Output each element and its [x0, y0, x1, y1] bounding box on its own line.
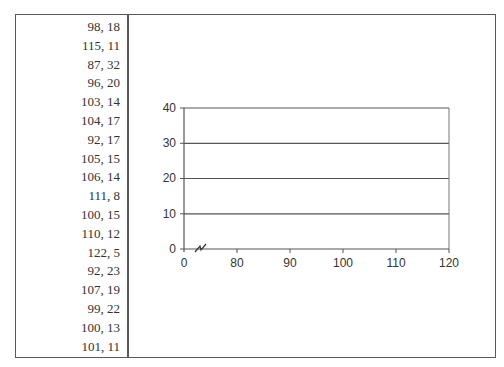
x-tick-label: 0 — [181, 256, 188, 270]
y-tick-label: 30 — [163, 136, 177, 150]
axis-break-icon — [195, 244, 206, 252]
x-tick-label: 90 — [283, 256, 297, 270]
x-tick-label: 80 — [230, 256, 244, 270]
x-tick-label: 100 — [333, 256, 353, 270]
y-tick-label: 10 — [163, 207, 177, 221]
y-tick-label: 40 — [163, 101, 177, 115]
x-tick-label: 110 — [386, 256, 405, 270]
chart: 40 30 20 10 0 0 80 90 100 110 120 — [0, 0, 504, 367]
gridlines — [184, 108, 449, 214]
x-tick-label: 120 — [439, 256, 459, 270]
y-tick-label: 20 — [163, 171, 177, 185]
y-tick-label: 0 — [169, 242, 176, 256]
